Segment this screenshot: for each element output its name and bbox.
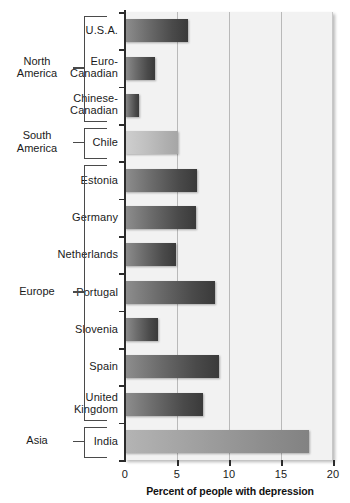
x-tick-label-0: 0 [111,468,139,480]
region-label-line1: South [1,129,73,142]
plot-inner [125,12,333,460]
depression-bar-chart: U.S.A.Euro-CanadianChinese-CanadianChile… [0,0,350,503]
y-tick-4 [119,161,126,163]
gridline-10 [229,12,230,460]
x-tick-5 [177,460,179,466]
y-tick-5 [119,199,126,201]
bar-u-s-a [125,19,188,42]
x-tick-label-15: 15 [267,468,295,480]
region-label-line1: Europe [1,285,73,298]
region-bracket-south-america [84,128,107,159]
bar-estonia [125,169,197,192]
region-label-asia: Asia [1,434,73,447]
x-tick-10 [229,460,231,466]
y-tick-3 [119,124,126,126]
region-bracket-stem-europe [73,291,84,292]
bar-netherlands [125,243,176,266]
region-bracket-stem-asia [73,441,84,442]
bar-united-kingdom [125,393,203,416]
x-tick-20 [333,460,335,466]
bar-germany [125,206,196,229]
bar-spain [125,355,219,378]
region-label-south-america: SouthAmerica [1,129,73,154]
region-label-line1: Asia [1,434,73,447]
x-tick-label-5: 5 [163,468,191,480]
y-tick-6 [119,236,126,238]
region-label-europe: Europe [1,285,73,298]
gridline-15 [281,12,282,460]
x-axis-title: Percent of people with depression [125,485,335,497]
region-label-line2: America [1,67,73,80]
x-tick-15 [281,460,283,466]
y-tick-11 [119,423,126,425]
bar-slovenia [125,318,158,341]
bar-portugal [125,281,215,304]
x-tick-label-20: 20 [319,468,347,480]
bar-euro-canadian [125,57,155,80]
y-tick-8 [119,311,126,313]
region-label-line2: America [1,142,73,155]
region-bracket-asia [84,427,107,458]
region-label-north-america: NorthAmerica [1,55,73,80]
bar-chinese-canadian [125,94,139,117]
bar-india [125,430,309,453]
plot-right-edge [332,12,333,460]
region-bracket-north-america [84,16,107,122]
region-bracket-europe [84,165,107,420]
y-tick-2 [119,87,126,89]
y-tick-10 [119,385,126,387]
y-tick-12 [119,460,126,462]
region-bracket-stem-north-america [73,67,84,68]
plot-area [125,12,333,460]
y-tick-7 [119,273,126,275]
bar-chile [125,131,178,154]
y-tick-9 [119,348,126,350]
y-tick-0 [119,12,126,14]
region-label-line1: North [1,55,73,68]
region-bracket-stem-south-america [73,142,84,143]
x-tick-label-10: 10 [215,468,243,480]
y-tick-1 [119,49,126,51]
